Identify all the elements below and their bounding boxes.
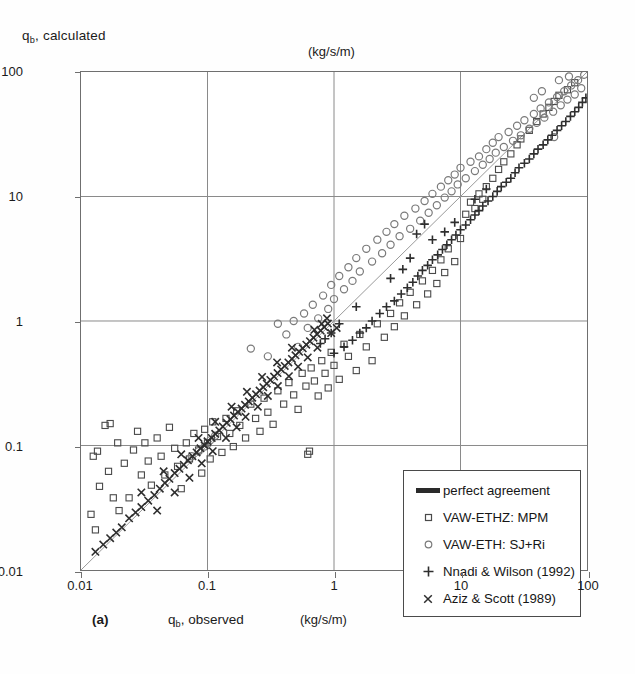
y-tick-label: 100	[0, 64, 23, 79]
figure-panel: qb, calculated (kg/s/m) perfect agreemen…	[0, 0, 635, 674]
y-tick-mark	[75, 72, 81, 73]
legend-label: VAW-ETH: SJ+Ri	[443, 537, 545, 552]
x-tick-label: 100	[558, 578, 618, 593]
x-tick-label: 10	[431, 578, 491, 593]
legend-square-icon	[413, 512, 443, 523]
legend-label: VAW-ETHZ: MPM	[443, 510, 548, 525]
legend-label: Aziz & Scott (1989)	[443, 591, 556, 606]
legend-item: VAW-ETHZ: MPM	[404, 504, 580, 531]
legend-line-icon	[413, 488, 443, 493]
x-axis-unit: (kg/s/m)	[300, 612, 347, 627]
series-circle	[188, 72, 587, 460]
y-tick-mark	[75, 447, 81, 448]
legend: perfect agreement VAW-ETHZ: MPM VAW-ETH:…	[403, 470, 581, 617]
legend-item: perfect agreement	[404, 477, 580, 504]
y-axis-label: qb, calculated	[22, 28, 106, 45]
plot-area: perfect agreement VAW-ETHZ: MPM VAW-ETH:…	[80, 71, 588, 571]
x-tick-label: 1	[304, 578, 364, 593]
x-tick-label: 0.1	[177, 578, 237, 593]
y-tick-label: 10	[0, 189, 23, 204]
y-axis-unit: (kg/s/m)	[308, 44, 355, 59]
legend-circle-icon	[413, 539, 443, 550]
legend-label: perfect agreement	[443, 483, 550, 498]
y-tick-label: 1	[0, 314, 23, 329]
y-tick-mark	[75, 322, 81, 323]
series-square	[88, 80, 578, 533]
series-plus	[316, 94, 587, 358]
panel-label: (a)	[92, 612, 109, 627]
y-tick-mark	[75, 197, 81, 198]
y-tick-label: 0.01	[0, 564, 23, 579]
legend-plus-icon	[413, 565, 443, 578]
series-cross	[92, 315, 341, 556]
legend-cross-icon	[413, 593, 443, 605]
x-tick-label: 0.01	[50, 578, 110, 593]
legend-item: VAW-ETH: SJ+Ri	[404, 531, 580, 558]
y-tick-label: 0.1	[0, 439, 23, 454]
x-axis-label: qb, observed	[168, 612, 244, 629]
